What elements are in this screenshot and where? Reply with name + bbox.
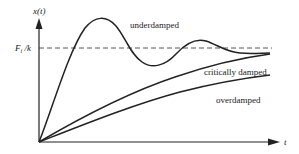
underdamped-label: underdamped <box>130 20 179 30</box>
x-axis-label: t <box>284 137 287 147</box>
y-axis-arrow-icon <box>36 18 43 29</box>
critically-damped-label: critically damped <box>204 67 267 77</box>
steady-state-label: Fi /k <box>15 43 31 56</box>
y-axis-label: x(t) <box>33 6 46 16</box>
overdamped-label: overdamped <box>216 95 260 105</box>
x-axis-arrow-icon <box>268 139 280 146</box>
steady-state-label-rest: /k <box>22 43 31 53</box>
damping-response-diagram: x(t) t Fi /k underdamped critically damp… <box>0 0 299 154</box>
